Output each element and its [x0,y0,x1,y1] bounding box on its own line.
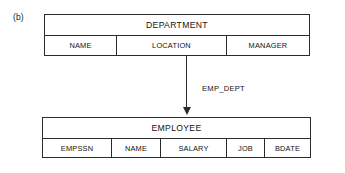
attribute-cell-department-name: NAME [45,36,117,55]
relationship-arrow-head-emp-dept [183,107,191,115]
relationship-label-emp-dept: EMP_DEPT [202,84,245,93]
relationship-arrow-line-emp-dept [186,56,187,109]
attribute-cell-department-manager: MANAGER [227,36,309,55]
entity-box-employee: EMPLOYEE EMPSSN NAME SALARY JOB BDATE [42,117,311,158]
figure-part-label: (b) [13,12,24,22]
attribute-cell-department-location: LOCATION [117,36,227,55]
attribute-cell-employee-bdate: BDATE [265,139,310,157]
attribute-row-employee: EMPSSN NAME SALARY JOB BDATE [43,139,310,157]
entity-title-employee: EMPLOYEE [43,118,310,139]
attribute-cell-employee-empssn: EMPSSN [43,139,112,157]
entity-title-department: DEPARTMENT [45,15,309,36]
attribute-cell-employee-job: JOB [227,139,265,157]
entity-box-department: DEPARTMENT NAME LOCATION MANAGER [44,14,310,56]
attribute-cell-employee-name: NAME [112,139,161,157]
attribute-row-department: NAME LOCATION MANAGER [45,36,309,55]
figure-canvas: (b) DEPARTMENT NAME LOCATION MANAGER EMP… [0,0,345,173]
attribute-cell-employee-salary: SALARY [161,139,227,157]
